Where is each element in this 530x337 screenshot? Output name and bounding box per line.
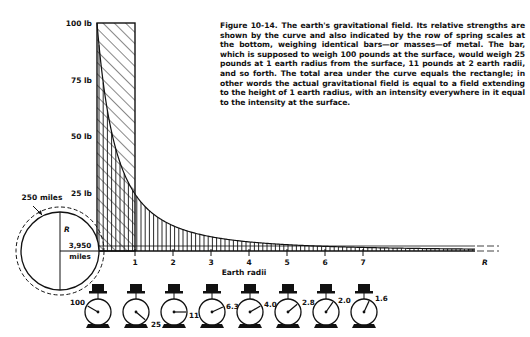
y-label-50: 50 lb <box>71 132 93 141</box>
earth-diagram: R 3,950 miles 250 miles <box>16 193 104 295</box>
scale-reading: 1.6 <box>375 294 388 303</box>
spring-scale: 25 <box>123 284 161 329</box>
metal-bar-icon <box>320 284 332 292</box>
atmosphere-label: 250 miles <box>22 193 63 202</box>
spring-scale: 2.8 <box>275 284 315 328</box>
x-tick-label: 3 <box>208 258 213 267</box>
metal-bar-icon <box>358 284 370 292</box>
y-label-100: 100 lb <box>66 19 93 28</box>
x-axis-end-label: R <box>482 258 488 267</box>
scale-reading: 4.0 <box>264 300 277 309</box>
equivalent-rectangle <box>97 23 135 251</box>
caption-text: The earth's gravitational field. Its rel… <box>220 21 525 107</box>
x-tick-label: 5 <box>284 258 289 267</box>
metal-bar-icon <box>130 284 142 292</box>
y-label-25: 25 lb <box>71 189 93 198</box>
scale-reading: 25 <box>151 320 161 329</box>
axis-dashes <box>477 246 499 251</box>
scale-reading: 100 <box>70 298 85 307</box>
y-axis-labels: 100 lb 75 lb 50 lb 25 lb <box>66 19 93 198</box>
x-tick-label: 1 <box>132 258 137 267</box>
scale-reading: 2.0 <box>338 296 351 305</box>
spring-scale: 6.3 <box>199 284 239 328</box>
spring-scale: 1.6 <box>351 284 388 328</box>
spring-scale: 4.0 <box>237 284 277 328</box>
spring-scale: 100 <box>70 284 111 328</box>
x-tick-label: 2 <box>170 258 175 267</box>
figure-label: Figure 10-14. <box>220 21 278 30</box>
scale-reading: 11 <box>189 311 199 320</box>
scale-reading: 2.8 <box>302 298 315 307</box>
x-tick-label: 6 <box>322 258 327 267</box>
radius-unit: miles <box>69 252 91 261</box>
metal-bar-icon <box>92 284 104 292</box>
x-tick-label: 7 <box>360 258 365 267</box>
metal-bar-icon <box>168 284 180 292</box>
y-label-75: 75 lb <box>71 76 93 85</box>
x-tick-label: 4 <box>246 258 251 267</box>
metal-bar-icon <box>206 284 218 292</box>
metal-bar-icon <box>282 284 294 292</box>
radius-value: 3,950 <box>69 241 92 250</box>
spring-scale: 11 <box>161 284 199 328</box>
x-axis-title: Earth radii <box>222 268 267 277</box>
metal-bar-icon <box>244 284 256 292</box>
spring-scale: 2.0 <box>313 284 351 328</box>
figure-caption: Figure 10-14.The earth's gravitational f… <box>220 21 525 107</box>
radius-symbol: R <box>64 225 70 234</box>
spring-scales-row: 10025116.34.02.82.01.6 <box>70 284 388 329</box>
